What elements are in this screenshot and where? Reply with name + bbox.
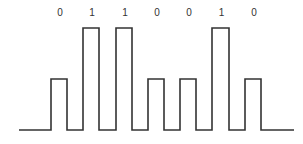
bit-label: 1: [214, 7, 230, 19]
waveform-diagram: [0, 0, 303, 144]
bit-label: 0: [181, 7, 197, 19]
bit-label: 0: [52, 7, 68, 19]
waveform-line: [19, 28, 294, 130]
bit-label: 0: [149, 7, 165, 19]
bit-label: 1: [84, 7, 100, 19]
bit-label: 1: [117, 7, 133, 19]
bit-label: 0: [246, 7, 262, 19]
